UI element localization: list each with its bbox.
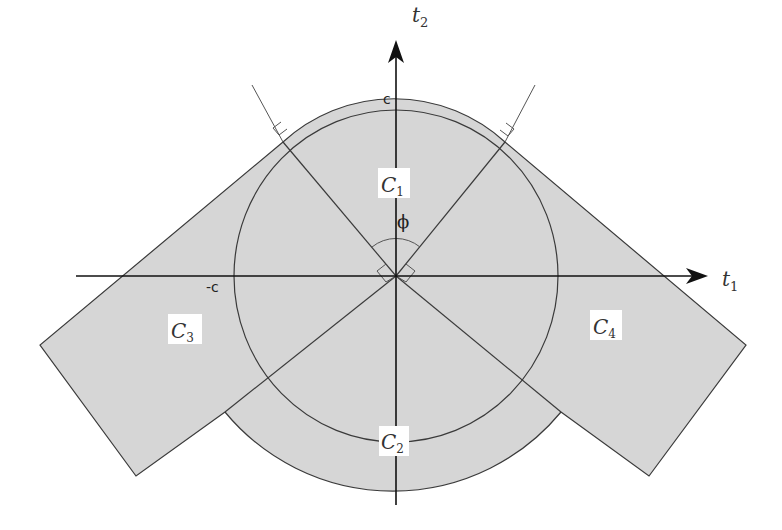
label-c3: C3: [168, 314, 202, 345]
angle-phi-label: ϕ: [397, 211, 409, 232]
t1-axis-label: t1: [722, 267, 738, 294]
tick-label-c: c: [383, 91, 391, 107]
ray-upper-left-extension: [252, 85, 283, 142]
label-c1: C1: [378, 168, 410, 199]
label-c4: C4: [590, 310, 622, 341]
label-c2: C2: [379, 426, 409, 456]
t2-axis-label: t2: [412, 3, 428, 30]
diagram-canvas: t2 t1 c -c ϕ C1 C2 C3 C4: [0, 0, 782, 530]
ray-upper-right-extension: [505, 85, 535, 142]
tick-label-neg-c: -c: [206, 279, 219, 295]
